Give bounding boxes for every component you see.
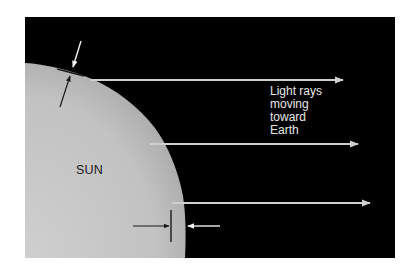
light-rays-label-line4: Earth [270, 124, 322, 137]
sun-label: SUN [76, 163, 103, 177]
light-rays-label: Light rays moving toward Earth [270, 85, 322, 137]
sun-limb-diagram [0, 0, 414, 275]
